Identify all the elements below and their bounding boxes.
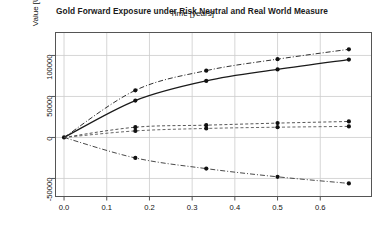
data-point-marker [347,57,351,61]
y-tick-label: 100000 [45,55,54,109]
data-point-marker [204,69,208,73]
x-tick-label: 0.4 [215,203,255,212]
data-point-marker [204,126,208,130]
data-point-marker [133,129,137,133]
chart-container: Gold Forward Exposure under Risk Neutral… [0,0,384,243]
data-point-marker [275,125,279,129]
data-point-marker [275,57,279,61]
x-tick-label: 0.3 [172,203,212,212]
x-tick-label: 0.1 [87,203,127,212]
data-point-marker [347,124,351,128]
data-point-marker [204,79,208,83]
x-tick-label: 0.2 [129,203,169,212]
x-tick-label: 0.5 [258,203,298,212]
x-tick-label: 0.6 [300,203,340,212]
data-point-marker [133,98,137,102]
gridlines [56,33,372,197]
data-point-marker [204,167,208,171]
data-point-marker [347,47,351,51]
data-point-marker [347,119,351,123]
data-point-marker [133,88,137,92]
data-point-marker [133,156,137,160]
data-point-marker [275,67,279,71]
data-series-layer [62,47,351,185]
plot-frame [56,33,372,197]
data-point-marker [133,125,137,129]
data-point-marker [347,181,351,185]
data-point-marker [275,175,279,179]
data-point-marker [275,121,279,125]
